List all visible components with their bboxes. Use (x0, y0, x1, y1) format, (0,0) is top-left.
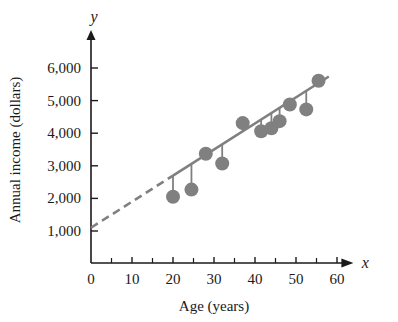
x-tick-label: 30 (207, 271, 222, 287)
data-point (215, 157, 229, 171)
data-point (236, 116, 250, 130)
y-axis-title: Annual income (dollars) (7, 77, 24, 224)
y-tick-label: 2,000 (47, 190, 81, 206)
data-point (312, 74, 326, 88)
x-tick-label: 40 (248, 271, 263, 287)
x-tick-label: 60 (330, 271, 345, 287)
data-point (199, 147, 213, 161)
data-point (283, 98, 297, 112)
y-tick-label: 1,000 (47, 223, 81, 239)
chart-canvas: 01020304050601,0002,0003,0004,0005,0006,… (0, 0, 398, 322)
y-axis-arrowhead (87, 30, 96, 40)
regression-line-dashed-extension (91, 176, 173, 228)
x-tick-label: 0 (87, 271, 95, 287)
data-point (184, 183, 198, 197)
y-axis-letter: y (88, 8, 98, 26)
data-point (166, 190, 180, 204)
scatter-plot-figure: 01020304050601,0002,0003,0004,0005,0006,… (0, 0, 398, 322)
y-tick-label: 3,000 (47, 158, 81, 174)
data-point (273, 114, 287, 128)
y-tick-label: 6,000 (47, 60, 81, 76)
y-tick-label: 5,000 (47, 93, 81, 109)
y-tick-label: 4,000 (47, 125, 81, 141)
x-tick-label: 50 (289, 271, 304, 287)
x-axis-title: Age (years) (179, 298, 249, 315)
x-tick-label: 20 (166, 271, 181, 287)
x-tick-label: 10 (125, 271, 140, 287)
data-point (299, 102, 313, 116)
x-axis-letter: x (361, 254, 369, 271)
x-axis-arrowhead (341, 259, 353, 268)
